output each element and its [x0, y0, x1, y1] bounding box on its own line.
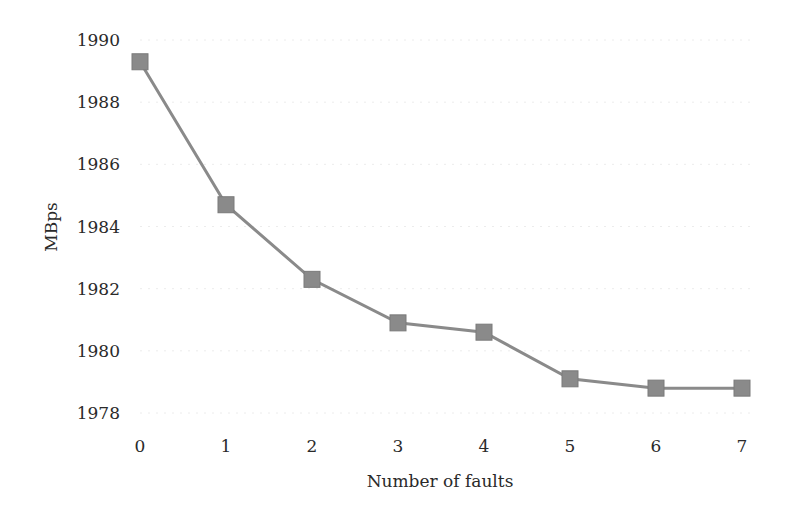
- y-tick-label: 1978: [77, 403, 120, 423]
- square-marker: [562, 371, 578, 387]
- y-tick-label: 1986: [77, 154, 120, 174]
- x-tick-label: 3: [393, 436, 404, 456]
- y-tick-label: 1990: [77, 30, 120, 50]
- y-tick-label: 1980: [77, 341, 120, 361]
- x-tick-label: 1: [221, 436, 232, 456]
- y-tick-label: 1984: [77, 217, 120, 237]
- x-tick-label: 6: [651, 436, 662, 456]
- square-marker: [476, 324, 492, 340]
- y-axis-title: MBps: [41, 202, 61, 252]
- x-tick-label: 0: [135, 436, 146, 456]
- x-tick-label: 7: [737, 436, 748, 456]
- y-axis-tick-labels: 1978198019821984198619881990: [77, 30, 120, 423]
- series-line: [140, 62, 742, 388]
- x-tick-label: 4: [479, 436, 490, 456]
- square-marker: [390, 315, 406, 331]
- line-chart: 1978198019821984198619881990 01234567 Nu…: [0, 0, 789, 524]
- x-axis-tick-labels: 01234567: [135, 436, 748, 456]
- x-axis-title: Number of faults: [367, 471, 514, 491]
- x-tick-label: 2: [307, 436, 318, 456]
- gridlines: [140, 40, 752, 413]
- square-marker: [132, 54, 148, 70]
- square-marker: [648, 380, 664, 396]
- x-tick-label: 5: [565, 436, 576, 456]
- data-point-markers: [132, 54, 750, 396]
- square-marker: [734, 380, 750, 396]
- square-marker: [218, 197, 234, 213]
- y-tick-label: 1982: [77, 279, 120, 299]
- square-marker: [304, 271, 320, 287]
- y-tick-label: 1988: [77, 92, 120, 112]
